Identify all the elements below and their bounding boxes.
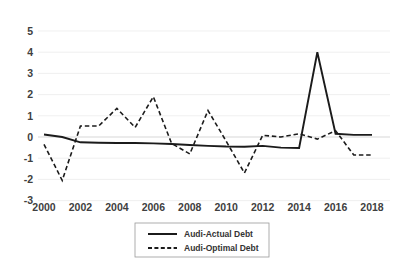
x-tick-label-2002: 2002 xyxy=(69,201,93,213)
chart-container: 543210-1-2-3 200020022004200620082010201… xyxy=(0,0,396,274)
x-tick-label-2014: 2014 xyxy=(287,201,311,213)
series-line-audi-optimal-debt xyxy=(44,97,372,181)
legend-label-audi-actual-debt: Audi-Actual Debt xyxy=(184,229,253,239)
y-axis-tick-labels: 543210-1-2-3 xyxy=(24,25,34,207)
gridlines-group xyxy=(38,31,390,201)
x-tick-label-2008: 2008 xyxy=(178,201,202,213)
y-tick-label-3: 3 xyxy=(27,67,33,79)
y-tick-label-2: 2 xyxy=(27,88,33,100)
y-tick-label-1: 1 xyxy=(27,110,33,122)
y-tick-label--2: -2 xyxy=(24,173,33,185)
x-tick-label-2018: 2018 xyxy=(360,201,384,213)
x-tick-label-2010: 2010 xyxy=(215,201,239,213)
x-tick-label-2004: 2004 xyxy=(105,201,129,213)
y-tick-label--1: -1 xyxy=(24,152,33,164)
chart-legend: Audi-Actual DebtAudi-Optimal Debt xyxy=(135,223,269,257)
x-tick-label-2012: 2012 xyxy=(251,201,275,213)
x-axis-tick-labels: 2000200220042006200820102012201420162018 xyxy=(32,201,384,213)
legend-label-audi-optimal-debt: Audi-Optimal Debt xyxy=(184,243,259,253)
y-tick-label-5: 5 xyxy=(27,25,33,37)
series-line-audi-actual-debt xyxy=(44,52,372,148)
y-tick-label-4: 4 xyxy=(27,46,33,58)
y-tick-label-0: 0 xyxy=(27,131,33,143)
data-series-group xyxy=(44,52,372,180)
line-chart: 543210-1-2-3 200020022004200620082010201… xyxy=(0,0,396,274)
x-tick-label-2006: 2006 xyxy=(142,201,166,213)
x-tick-label-2016: 2016 xyxy=(324,201,348,213)
x-tick-label-2000: 2000 xyxy=(32,201,56,213)
